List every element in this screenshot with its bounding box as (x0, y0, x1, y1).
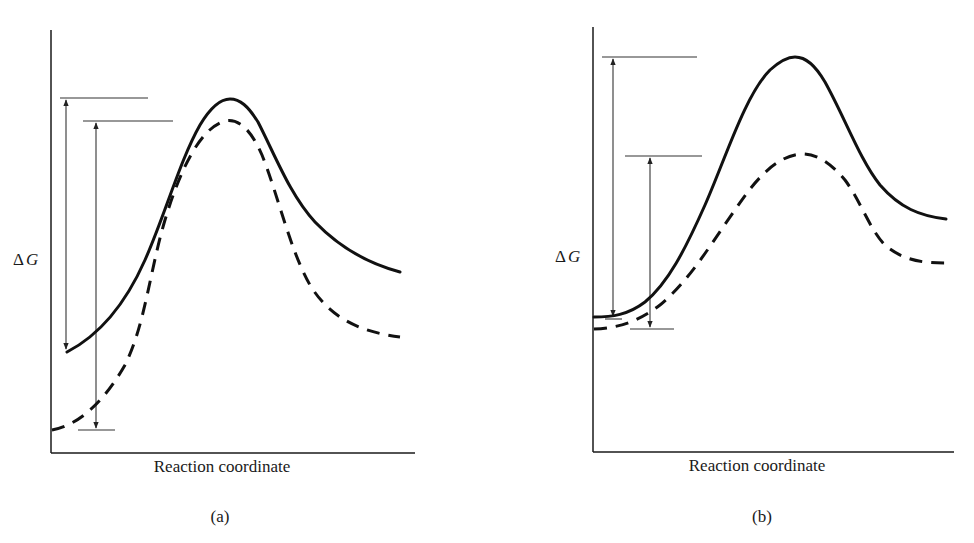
figure: ΔG Reaction coordinate (a) ΔG Reaction c… (0, 0, 974, 543)
dashed-curve (594, 154, 949, 329)
y-axis-label: ΔG (555, 247, 580, 266)
solid-curve (594, 57, 946, 317)
panel-caption: (a) (211, 507, 230, 526)
dashed-curve (52, 121, 400, 430)
x-axis-label: Reaction coordinate (689, 456, 825, 475)
y-axis-label: ΔG (13, 250, 38, 269)
panel-b: ΔG Reaction coordinate (b) (555, 27, 954, 526)
x-axis-label: Reaction coordinate (154, 457, 290, 476)
panel-a: ΔG Reaction coordinate (a) (13, 30, 415, 526)
panel-caption: (b) (752, 507, 772, 526)
solid-curve (67, 99, 400, 352)
